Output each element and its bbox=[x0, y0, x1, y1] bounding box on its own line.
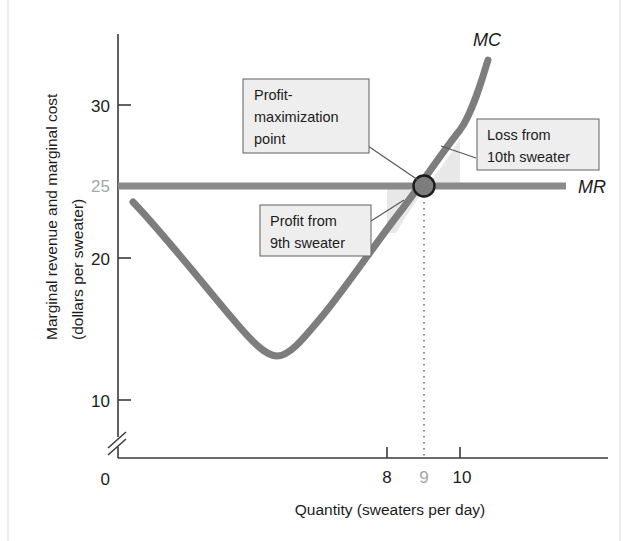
profit-9th-line-1: Profit from bbox=[270, 213, 337, 229]
callout-profit-9th-sweater[interactable]: Profit from 9th sweater bbox=[260, 205, 371, 256]
profit-9th-line-2: 9th sweater bbox=[270, 235, 345, 251]
y-tick-label-25: 25 bbox=[91, 177, 110, 196]
economics-figure: 30 25 20 10 0 8 9 10 Marginal revenue an… bbox=[0, 0, 625, 541]
y-tick-label-10: 10 bbox=[91, 392, 110, 411]
mr-curve-label: MR bbox=[578, 177, 606, 197]
loss-10th-line-1: Loss from bbox=[487, 127, 551, 143]
profit-max-line-2: maximization bbox=[254, 109, 339, 125]
profit-max-line-3: point bbox=[254, 131, 285, 147]
x-axis-title: Quantity (sweaters per day) bbox=[295, 501, 485, 518]
y-axis-title-line2: (dollars per sweater) bbox=[69, 199, 86, 340]
callout-profit-maximization[interactable]: Profit- maximization point bbox=[243, 79, 369, 153]
mr-line-group[interactable]: MR bbox=[118, 177, 606, 197]
origin-label: 0 bbox=[101, 470, 110, 489]
callout-loss-10th-sweater[interactable]: Loss from 10th sweater bbox=[477, 119, 599, 170]
x-tick-label-8: 8 bbox=[382, 468, 391, 487]
y-axis-break-icon bbox=[108, 432, 126, 455]
profit-max-leader-line bbox=[368, 146, 418, 180]
x-tick-label-10: 10 bbox=[453, 468, 472, 487]
y-axis-title-line1: Marginal revenue and marginal cost bbox=[43, 93, 60, 340]
x-tick-label-9: 9 bbox=[419, 468, 428, 487]
y-tick-label-30: 30 bbox=[91, 97, 110, 116]
loss-10th-line-2: 10th sweater bbox=[487, 149, 570, 165]
profit-max-line-1: Profit- bbox=[254, 87, 293, 103]
y-tick-label-20: 20 bbox=[91, 250, 110, 269]
mc-mr-chart: 30 25 20 10 0 8 9 10 Marginal revenue an… bbox=[0, 0, 625, 541]
mc-curve-label: MC bbox=[473, 30, 502, 50]
